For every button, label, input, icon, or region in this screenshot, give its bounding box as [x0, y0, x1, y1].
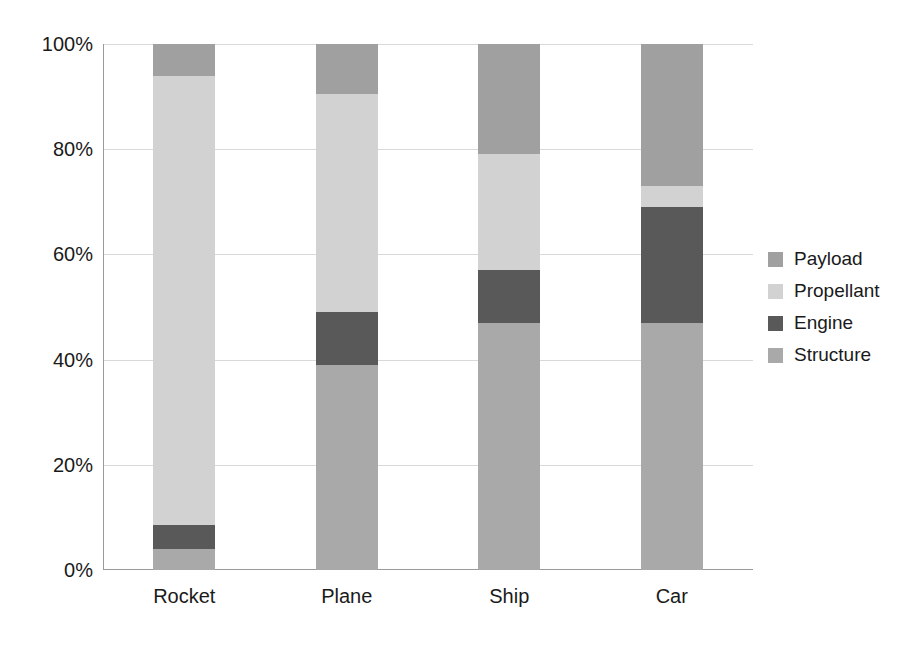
stacked-bar[interactable] — [153, 44, 215, 570]
bar-segment-engine[interactable] — [153, 525, 215, 549]
legend-label: Propellant — [794, 281, 880, 301]
stacked-bar[interactable] — [478, 44, 540, 570]
bar-segment-structure[interactable] — [316, 365, 378, 570]
legend-swatch-icon — [768, 316, 783, 331]
stacked-bar[interactable] — [316, 44, 378, 570]
y-tick-label: 0% — [11, 560, 93, 580]
legend-label: Engine — [794, 313, 853, 333]
bar-group-ship — [428, 44, 591, 570]
bar-segment-payload[interactable] — [316, 44, 378, 94]
bar-group-rocket — [103, 44, 266, 570]
legend-item-engine[interactable]: Engine — [768, 307, 913, 339]
legend-item-propellant[interactable]: Propellant — [768, 275, 913, 307]
legend-swatch-icon — [768, 348, 783, 363]
bar-segment-payload[interactable] — [478, 44, 540, 154]
bar-segment-payload[interactable] — [153, 44, 215, 76]
y-tick-label: 40% — [11, 350, 93, 370]
y-tick-label: 60% — [11, 244, 93, 264]
bar-segment-propellant[interactable] — [641, 186, 703, 207]
bar-segment-structure[interactable] — [478, 323, 540, 570]
x-tick-label: Plane — [321, 584, 372, 608]
x-axis: RocketPlaneShipCar — [103, 584, 753, 614]
legend-label: Structure — [794, 345, 871, 365]
x-tick-label: Car — [656, 584, 688, 608]
legend-item-payload[interactable]: Payload — [768, 243, 913, 275]
legend-swatch-icon — [768, 284, 783, 299]
stacked-bar[interactable] — [641, 44, 703, 570]
bar-segment-propellant[interactable] — [316, 94, 378, 312]
y-axis: 100%80%60%40%20%0% — [0, 44, 93, 570]
bar-segment-engine[interactable] — [316, 312, 378, 365]
bars-layer — [103, 44, 753, 570]
stacked-bar-chart: 100%80%60%40%20%0% RocketPlaneShipCar Pa… — [0, 0, 919, 649]
y-tick-label: 20% — [11, 455, 93, 475]
y-tick-label: 80% — [11, 139, 93, 159]
legend-label: Payload — [794, 249, 863, 269]
bar-group-car — [591, 44, 754, 570]
bar-segment-propellant[interactable] — [153, 76, 215, 526]
legend-swatch-icon — [768, 252, 783, 267]
y-tick-label: 100% — [11, 34, 93, 54]
legend-item-structure[interactable]: Structure — [768, 339, 913, 371]
bar-segment-structure[interactable] — [153, 549, 215, 570]
x-tick-label: Ship — [489, 584, 529, 608]
bar-segment-engine[interactable] — [641, 207, 703, 323]
legend: PayloadPropellantEngineStructure — [768, 243, 913, 371]
bar-segment-structure[interactable] — [641, 323, 703, 570]
bar-segment-propellant[interactable] — [478, 154, 540, 270]
bar-segment-engine[interactable] — [478, 270, 540, 323]
bar-group-plane — [266, 44, 429, 570]
bar-segment-payload[interactable] — [641, 44, 703, 186]
x-tick-label: Rocket — [153, 584, 215, 608]
